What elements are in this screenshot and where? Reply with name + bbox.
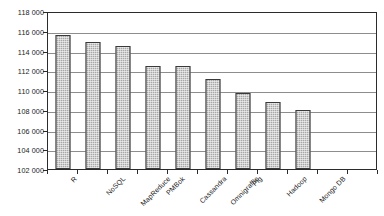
bar[interactable] (266, 102, 281, 169)
x-axis-tick-mark (77, 170, 78, 174)
x-axis-category-labels: RNoSQLMapReducePMBokCassandraOmnigraffle… (47, 175, 377, 216)
x-axis-tick-mark (167, 170, 168, 174)
bar-slot (288, 13, 318, 169)
x-axis-tick-mark (317, 170, 318, 174)
bar-slot (78, 13, 108, 169)
y-axis-tick-label: 118 000 (18, 8, 44, 17)
x-axis-category-label: Mongo DB (318, 175, 347, 204)
y-axis-tick-label: 102 000 (17, 166, 44, 175)
x-axis-tick-mark (287, 170, 288, 174)
x-axis-category-label: NoSQL (105, 175, 127, 197)
x-axis-tick-mark (107, 170, 108, 174)
bar[interactable] (296, 110, 311, 169)
bars-layer (48, 13, 376, 169)
y-axis-tick-label: 116 000 (18, 27, 44, 36)
bar-slot (138, 13, 168, 169)
y-axis-tick-labels: 102 000104 000106 000108 000110 000112 0… (0, 0, 47, 216)
bar[interactable] (56, 35, 71, 169)
y-axis-tick-label: 104 000 (17, 146, 44, 155)
bar-chart: 102 000104 000106 000108 000110 000112 0… (0, 0, 384, 216)
y-axis-tick-label: 106 000 (17, 126, 44, 135)
bar[interactable] (176, 66, 191, 169)
x-axis-tick-mark (227, 170, 228, 174)
bar[interactable] (236, 93, 251, 169)
x-axis-tick-mark (137, 170, 138, 174)
bar-slot (258, 13, 288, 169)
bar-slot (228, 13, 258, 169)
x-axis-category-label: Hadoop (285, 175, 308, 198)
y-axis-tick-label: 114 000 (18, 47, 44, 56)
y-axis-tick-label: 112 000 (18, 67, 44, 76)
y-axis-tick-label: 108 000 (17, 106, 44, 115)
x-axis-tick-mark (377, 170, 378, 174)
bar[interactable] (116, 46, 131, 169)
bar-slot (48, 13, 78, 169)
x-axis-tick-mark (47, 170, 48, 174)
bar[interactable] (86, 42, 101, 169)
x-axis-category-label: Cassandra (198, 175, 228, 205)
plot-area (47, 12, 377, 170)
bar-slot (168, 13, 198, 169)
bar[interactable] (146, 66, 161, 169)
bar[interactable] (206, 79, 221, 169)
x-axis-category-label: R (70, 175, 79, 184)
x-axis-tick-mark (347, 170, 348, 174)
bar-slot (108, 13, 138, 169)
bar-slot (198, 13, 228, 169)
x-axis-tick-mark (257, 170, 258, 174)
y-axis-tick-label: 110 000 (18, 87, 44, 96)
x-axis-tick-mark (197, 170, 198, 174)
